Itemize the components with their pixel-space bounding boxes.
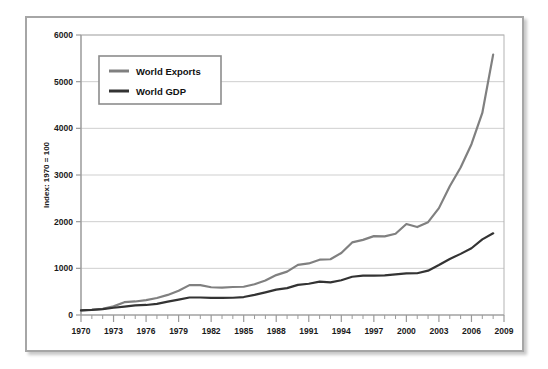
x-tick-label: 1979 [169,326,188,336]
x-tick-label: 1991 [299,326,318,336]
x-tick-label: 1985 [234,326,253,336]
legend-label[interactable]: World Exports [136,66,201,77]
chart-plot-wrapper: 0100020003000400050006000 19701973197619… [27,18,526,354]
x-tick-label: 1997 [364,326,383,336]
y-tick-labels: 0100020003000400050006000 [54,30,81,320]
x-tick-labels: 1970197319761979198219851988199119941997… [72,315,514,336]
y-tick-label: 3000 [54,170,73,180]
y-tick-label: 2000 [54,217,73,227]
x-tick-label: 1988 [267,326,286,336]
x-tick-label: 2009 [495,326,514,336]
x-tick-label: 2003 [429,326,448,336]
x-tick-label: 2000 [397,326,416,336]
x-tick-label: 1970 [72,326,91,336]
y-tick-label: 1000 [54,263,73,273]
x-tick-label: 2006 [462,326,481,336]
x-tick-label: 1976 [137,326,156,336]
y-axis-title-text: Index: 1970 = 100 [42,141,51,208]
x-tick-label: 1973 [104,326,123,336]
x-tick-label: 1994 [332,326,351,336]
y-tick-label: 0 [68,310,73,320]
y-tick-label: 5000 [54,77,73,87]
y-tick-label: 6000 [54,30,73,40]
y-tick-label: 4000 [54,123,73,133]
x-tick-label: 1982 [202,326,221,336]
chart-legend[interactable]: World ExportsWorld GDP [99,56,221,104]
chart-figure-frame: 0100020003000400050006000 19701973197619… [25,16,524,352]
legend-label[interactable]: World GDP [136,86,187,97]
y-axis-title: Index: 1970 = 100 [42,141,51,208]
line-chart: 0100020003000400050006000 19701973197619… [27,18,526,354]
